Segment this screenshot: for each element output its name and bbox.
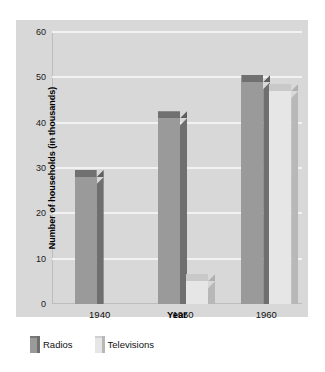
bar-top-face bbox=[75, 170, 97, 177]
chart-legend: RadiosTelevisions bbox=[30, 336, 154, 353]
axis-area: 0102030405060 194019501960 bbox=[52, 32, 302, 304]
chart-panel: 0102030405060 194019501960 Number of hou… bbox=[16, 20, 308, 317]
bar-top-face bbox=[158, 111, 180, 118]
bar-side-face bbox=[291, 91, 298, 304]
plot-area: 0102030405060 194019501960 Number of hou… bbox=[52, 32, 302, 304]
bar-front-face bbox=[186, 281, 208, 304]
y-axis-tick-label: 30 bbox=[36, 163, 46, 173]
bar-side-face bbox=[97, 177, 104, 304]
bar-top-corner bbox=[208, 274, 215, 281]
bar-group: 1960 bbox=[241, 32, 291, 304]
bar-top-corner bbox=[97, 170, 104, 177]
legend-item-radios: Radios bbox=[30, 336, 73, 353]
legend-item-televisions: Televisions bbox=[95, 336, 154, 353]
bar-radios-1940 bbox=[75, 177, 97, 304]
bar-top-face bbox=[269, 84, 291, 91]
bar-televisions-1960 bbox=[269, 91, 291, 304]
swatch-front-face bbox=[30, 338, 37, 353]
bar-televisions-1950 bbox=[186, 281, 208, 304]
bar-top-corner bbox=[291, 84, 298, 91]
bar-front-face bbox=[269, 91, 291, 304]
legend-label: Radios bbox=[43, 339, 73, 350]
cropped-header-text-strip bbox=[0, 0, 325, 8]
swatch-side-face bbox=[102, 336, 105, 353]
y-axis-tick-label: 0 bbox=[41, 299, 46, 309]
light-gray-swatch bbox=[95, 336, 102, 353]
swatch-front-face bbox=[95, 338, 102, 353]
y-axis-tick-label: 60 bbox=[36, 27, 46, 37]
y-axis-tick-label: 10 bbox=[36, 254, 46, 264]
bar-front-face bbox=[158, 118, 180, 304]
bar-front-face bbox=[75, 177, 97, 304]
y-axis-tick-label: 20 bbox=[36, 208, 46, 218]
swatch-side-face bbox=[37, 336, 40, 353]
bar-side-face bbox=[208, 281, 215, 304]
y-axis-tick-label: 50 bbox=[36, 72, 46, 82]
bar-group: 1950 bbox=[158, 32, 208, 304]
bar-top-face bbox=[186, 274, 208, 281]
dark-gray-swatch bbox=[30, 336, 37, 353]
bar-top-corner bbox=[180, 111, 187, 118]
bar-front-face bbox=[241, 82, 263, 304]
bar-radios-1960 bbox=[241, 82, 263, 304]
bar-radios-1950 bbox=[158, 118, 180, 304]
bar-group: 1940 bbox=[75, 32, 125, 304]
legend-label: Televisions bbox=[108, 339, 154, 350]
x-axis-title: Year bbox=[52, 309, 302, 320]
bar-top-face bbox=[241, 75, 263, 82]
bar-top-corner bbox=[263, 75, 270, 82]
y-axis-tick-label: 40 bbox=[36, 118, 46, 128]
y-axis-title: Number of households (in thousands) bbox=[47, 48, 57, 288]
